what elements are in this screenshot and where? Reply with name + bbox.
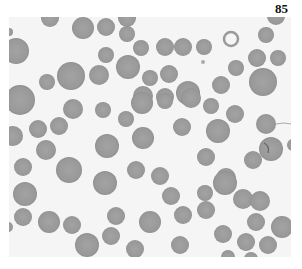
debris-dot [201, 60, 205, 64]
red-blood-cell [36, 140, 56, 160]
red-blood-cell [9, 85, 35, 115]
red-blood-cell [197, 185, 213, 201]
red-blood-cell [39, 74, 55, 90]
red-blood-cell [271, 216, 291, 238]
red-blood-cell [228, 60, 244, 76]
red-blood-cell [9, 222, 13, 232]
red-blood-cell [196, 39, 212, 55]
red-blood-cell [98, 47, 114, 63]
red-blood-cell [131, 92, 153, 114]
red-blood-cell [9, 38, 29, 64]
red-blood-cell [142, 70, 158, 86]
red-blood-cell [95, 134, 119, 158]
red-blood-cell [212, 76, 230, 94]
red-blood-cell [56, 157, 82, 183]
red-blood-cell [270, 50, 286, 66]
red-blood-cell [151, 167, 169, 185]
red-blood-cell [63, 99, 83, 119]
red-blood-cell [244, 151, 262, 169]
red-blood-cell [102, 227, 120, 245]
red-blood-cell [9, 126, 23, 146]
red-blood-cell [197, 201, 215, 219]
red-blood-cell [267, 17, 285, 25]
red-blood-cell [9, 28, 13, 36]
red-blood-cell [75, 233, 99, 257]
red-blood-cell [41, 17, 59, 27]
red-blood-cell [214, 225, 232, 243]
red-blood-cell [250, 191, 270, 211]
red-blood-cell [173, 118, 191, 136]
red-blood-cell [233, 189, 253, 209]
blood-smear-micrograph [9, 17, 291, 257]
red-blood-cell [213, 171, 237, 195]
red-blood-cell [157, 93, 173, 109]
red-blood-cell [287, 139, 291, 151]
red-blood-cell [226, 105, 244, 123]
red-blood-cell [107, 207, 125, 225]
red-blood-cell [14, 158, 32, 176]
red-blood-cell [63, 216, 81, 234]
red-blood-cell [160, 65, 178, 83]
red-blood-cell [89, 65, 109, 85]
red-blood-cell [249, 68, 277, 96]
red-blood-cell [139, 211, 161, 233]
red-blood-cell [258, 27, 274, 43]
red-blood-cell [197, 148, 215, 166]
red-blood-cell [256, 114, 276, 134]
red-blood-cell [13, 182, 37, 206]
red-blood-cell [244, 252, 258, 257]
cell-tail [276, 123, 291, 124]
red-blood-cell [93, 171, 117, 195]
red-blood-cell [57, 62, 85, 90]
red-blood-cell [14, 208, 32, 226]
red-blood-cell [259, 137, 283, 161]
red-blood-cell [116, 55, 140, 79]
red-blood-cell [248, 49, 266, 67]
red-blood-cell [156, 38, 174, 56]
red-blood-cell [133, 40, 149, 56]
ghost-cell [224, 32, 238, 46]
red-blood-cell [206, 119, 230, 143]
red-blood-cell [118, 17, 136, 27]
red-blood-cell [132, 127, 154, 149]
red-blood-cell [29, 120, 47, 138]
page-number: 85 [275, 1, 288, 17]
red-blood-cell [50, 117, 68, 135]
red-blood-cell [237, 233, 255, 251]
red-blood-cell [174, 38, 192, 56]
red-blood-cell [181, 88, 201, 108]
red-blood-cell [126, 240, 144, 257]
red-blood-cell [38, 211, 60, 233]
red-blood-cell [119, 26, 135, 42]
cells-group [9, 17, 291, 257]
red-blood-cell [72, 17, 94, 39]
red-blood-cell [162, 187, 180, 205]
red-blood-cell [171, 236, 189, 254]
red-blood-cell [203, 98, 219, 114]
red-blood-cell [127, 161, 145, 179]
red-blood-cell [95, 102, 111, 118]
red-blood-cell [97, 18, 115, 36]
red-blood-cell [221, 250, 235, 257]
red-blood-cell [247, 213, 265, 231]
red-blood-cells [9, 17, 291, 257]
red-blood-cell [118, 111, 134, 127]
red-blood-cell [259, 236, 277, 254]
red-blood-cell [174, 206, 192, 224]
